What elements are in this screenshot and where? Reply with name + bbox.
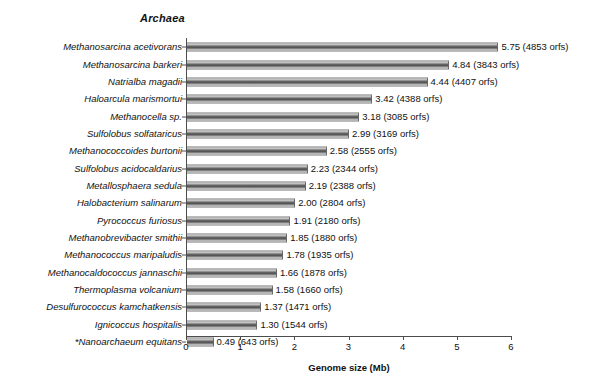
bar xyxy=(187,181,306,190)
x-axis-tick xyxy=(349,336,350,340)
bar-value-label: 1.37 (1471 orfs) xyxy=(264,303,331,313)
category-label: Methanocaldococcus jannaschii xyxy=(48,268,182,278)
y-axis-tick xyxy=(182,324,186,325)
bar xyxy=(187,60,449,69)
x-axis-tick-label: 5 xyxy=(454,342,459,352)
bar-row: Pyrococcus furiosus1.91 (2180 orfs) xyxy=(0,212,609,229)
genome-size-bar-chart: Archaea Methanosarcina acetivorans5.75 (… xyxy=(0,0,609,391)
bar xyxy=(187,338,214,347)
x-axis-tick xyxy=(240,336,241,340)
bar xyxy=(187,234,287,243)
bar-value-label: 1.58 (1660 orfs) xyxy=(276,285,343,295)
bar-row: Natrialba magadii4.44 (4407 orfs) xyxy=(0,73,609,90)
bar-value-label: 1.78 (1935 orfs) xyxy=(286,251,353,261)
category-label: Natrialba magadii xyxy=(108,77,182,87)
bar-row: Methanocella sp.3.18 (3085 orfs) xyxy=(0,108,609,125)
category-label: Methanococcus maripaludis xyxy=(64,251,182,261)
bar-row: Methanococcus maripaludis1.78 (1935 orfs… xyxy=(0,247,609,264)
bar xyxy=(187,286,273,295)
category-label: Methanococcoides burtonii xyxy=(69,147,182,157)
category-label: Methanocella sp. xyxy=(110,112,182,122)
bar-row: Methanococcoides burtonii2.58 (2555 orfs… xyxy=(0,143,609,160)
x-axis-tick xyxy=(457,336,458,340)
bar-row: Methanosarcina acetivorans5.75 (4853 orf… xyxy=(0,39,609,56)
y-axis-tick xyxy=(182,238,186,239)
x-axis-tick xyxy=(294,336,295,340)
bar xyxy=(187,216,290,225)
bar xyxy=(187,112,359,121)
bar xyxy=(187,147,327,156)
bar xyxy=(187,43,498,52)
bar xyxy=(187,199,295,208)
x-axis-tick xyxy=(186,336,187,340)
bar-value-label: 1.85 (1880 orfs) xyxy=(290,233,357,243)
bar-value-label: 2.58 (2555 orfs) xyxy=(330,147,397,157)
bar xyxy=(187,77,428,86)
bar xyxy=(187,251,283,260)
x-axis-title: Genome size (Mb) xyxy=(186,362,512,373)
plot-area: Methanosarcina acetivorans5.75 (4853 orf… xyxy=(0,0,609,391)
category-label: Sulfolobus acidocaldarius xyxy=(74,164,182,174)
bar-value-label: 4.44 (4407 orfs) xyxy=(431,77,498,87)
bar-value-label: 2.23 (2344 orfs) xyxy=(311,164,378,174)
bar xyxy=(187,268,277,277)
category-label: Metallosphaera sedula xyxy=(86,181,182,191)
bar-row: Metallosphaera sedula2.19 (2388 orfs) xyxy=(0,177,609,194)
bar-row: Sulfolobus acidocaldarius2.23 (2344 orfs… xyxy=(0,160,609,177)
x-axis-tick-label: 3 xyxy=(346,342,351,352)
bar xyxy=(187,320,257,329)
bar-row: Halobacterium salinarum2.00 (2804 orfs) xyxy=(0,195,609,212)
category-label: Haloarcula marismortui xyxy=(84,94,182,104)
bar-value-label: 2.00 (2804 orfs) xyxy=(298,199,365,209)
y-axis-tick xyxy=(182,220,186,221)
bar xyxy=(187,164,308,173)
bar xyxy=(187,303,261,312)
bar-value-label: 1.91 (2180 orfs) xyxy=(293,216,360,226)
bar-row: Ignicoccus hospitalis1.30 (1544 orfs) xyxy=(0,316,609,333)
bar-row: Sulfolobus solfataricus2.99 (3169 orfs) xyxy=(0,125,609,142)
bar-row: *Nanoarchaeum equitans0.49 (643 orfs) xyxy=(0,333,609,350)
bar-row: Methanosarcina barkeri4.84 (3843 orfs) xyxy=(0,56,609,73)
x-axis-tick-label: 1 xyxy=(238,342,243,352)
category-label: Methanobrevibacter smithii xyxy=(68,233,182,243)
x-axis-tick-label: 0 xyxy=(183,342,188,352)
category-label: Halobacterium salinarum xyxy=(77,199,182,209)
y-axis-tick xyxy=(182,81,186,82)
bar-value-label: 3.18 (3085 orfs) xyxy=(362,112,429,122)
x-axis-tick xyxy=(511,336,512,340)
bar-value-label: 3.42 (4388 orfs) xyxy=(375,94,442,104)
y-axis-tick xyxy=(182,99,186,100)
x-axis-tick-label: 2 xyxy=(292,342,297,352)
category-label: Thermoplasma volcanium xyxy=(73,285,182,295)
category-label: *Nanoarchaeum equitans xyxy=(75,337,182,347)
bar-value-label: 1.30 (1544 orfs) xyxy=(260,320,327,330)
y-axis-tick xyxy=(182,168,186,169)
x-axis-tick-label: 6 xyxy=(508,342,513,352)
y-axis-tick xyxy=(182,185,186,186)
bar xyxy=(187,129,349,138)
y-axis-tick xyxy=(182,307,186,308)
x-axis-tick-label: 4 xyxy=(400,342,405,352)
bar-row: Methanobrevibacter smithii1.85 (1880 orf… xyxy=(0,229,609,246)
bar-value-label: 2.99 (3169 orfs) xyxy=(352,129,419,139)
y-axis-tick xyxy=(182,151,186,152)
category-label: Methanosarcina acetivorans xyxy=(63,42,182,52)
y-axis-tick xyxy=(182,290,186,291)
y-axis-tick xyxy=(182,133,186,134)
bar-value-label: 2.19 (2388 orfs) xyxy=(309,181,376,191)
bar xyxy=(187,95,372,104)
category-label: Pyrococcus furiosus xyxy=(97,216,182,226)
x-axis-tick xyxy=(403,336,404,340)
bar-value-label: 5.75 (4853 orfs) xyxy=(501,42,568,52)
bar-value-label: 1.66 (1878 orfs) xyxy=(280,268,347,278)
bar-value-label: 0.49 (643 orfs) xyxy=(217,337,279,347)
bar-row: Methanocaldococcus jannaschii1.66 (1878 … xyxy=(0,264,609,281)
category-label: Ignicoccus hospitalis xyxy=(95,320,182,330)
bar-row: Haloarcula marismortui3.42 (4388 orfs) xyxy=(0,91,609,108)
bar-row: Desulfurococcus kamchatkensis1.37 (1471 … xyxy=(0,299,609,316)
y-axis-tick xyxy=(182,272,186,273)
y-axis-tick xyxy=(182,64,186,65)
y-axis-tick xyxy=(182,116,186,117)
bar-row: Thermoplasma volcanium1.58 (1660 orfs) xyxy=(0,281,609,298)
category-label: Methanosarcina barkeri xyxy=(83,60,182,70)
